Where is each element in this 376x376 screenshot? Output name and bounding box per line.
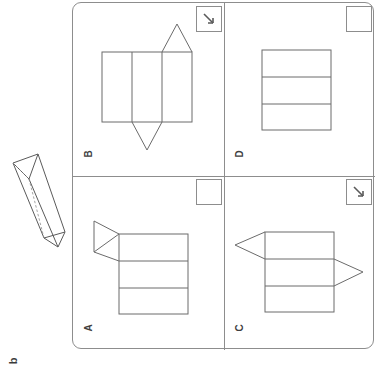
panel-label-a: A xyxy=(82,321,96,335)
question-letter: b xyxy=(4,352,22,370)
answer-panel-c[interactable]: C xyxy=(224,176,375,350)
net-diagram-a xyxy=(91,212,206,324)
net-diagram-d xyxy=(260,47,340,133)
check-arrow-icon xyxy=(197,7,221,31)
answer-panel-d[interactable]: D xyxy=(224,3,375,176)
worksheet-page: B D xyxy=(0,0,376,376)
choice-marker-c[interactable] xyxy=(346,179,372,205)
net-diagram-c xyxy=(232,214,367,324)
triangular-prism-figure xyxy=(2,146,72,256)
choice-marker-b[interactable] xyxy=(196,6,222,32)
answer-panel-a[interactable]: A xyxy=(73,176,224,350)
panel-label-d: D xyxy=(233,147,247,161)
answer-options-card: B D xyxy=(72,2,374,349)
answer-panel-b[interactable]: B xyxy=(73,3,224,176)
panel-label-c: C xyxy=(233,321,247,335)
panel-label-b: B xyxy=(82,147,96,161)
choice-marker-d[interactable] xyxy=(346,6,372,32)
check-arrow-icon xyxy=(347,180,371,204)
net-diagram-b xyxy=(95,19,205,155)
choice-marker-a[interactable] xyxy=(196,179,222,205)
